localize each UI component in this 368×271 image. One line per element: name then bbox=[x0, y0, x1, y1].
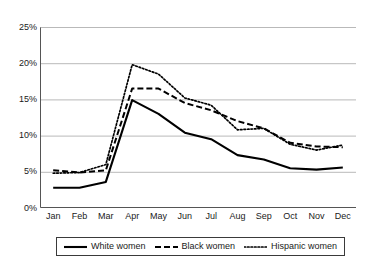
legend-entry-white-women[interactable]: White women bbox=[64, 242, 146, 251]
gridlines bbox=[40, 28, 356, 173]
y-axis: 0%5%10%15%20%25% bbox=[0, 27, 37, 208]
plot-area bbox=[40, 27, 356, 208]
x-tick-label-apr: Apr bbox=[125, 211, 139, 222]
legend-label: Black women bbox=[182, 242, 236, 251]
legend-label: White women bbox=[91, 242, 146, 251]
unemployment-line-chart: 0%5%10%15%20%25% JanFebMarAprMayJunJulAu… bbox=[0, 0, 368, 271]
y-tick-label: 5% bbox=[3, 167, 37, 176]
x-tick-label-may: May bbox=[150, 211, 167, 222]
data-series-group bbox=[53, 65, 343, 188]
axis-lines bbox=[41, 28, 357, 208]
series-line-hispanic-women bbox=[53, 65, 343, 174]
legend-swatch-dashed-icon bbox=[155, 243, 178, 251]
plot-svg bbox=[40, 27, 356, 208]
x-tick-label-jul: Jul bbox=[205, 211, 217, 222]
x-tick-label-aug: Aug bbox=[229, 211, 245, 222]
legend-label: Hispanic women bbox=[271, 242, 337, 251]
x-tick-label-oct: Oct bbox=[283, 211, 297, 222]
x-tick-label-jan: Jan bbox=[46, 211, 61, 222]
x-tick-label-sep: Sep bbox=[256, 211, 272, 222]
y-tick-label: 15% bbox=[3, 95, 37, 104]
x-tick-label-jun: Jun bbox=[178, 211, 193, 222]
x-axis: JanFebMarAprMayJunJulAugSepOctNovDec bbox=[40, 211, 356, 225]
legend-entry-hispanic-women[interactable]: Hispanic women bbox=[244, 242, 337, 251]
x-tick-label-nov: Nov bbox=[308, 211, 324, 222]
y-tick-label: 10% bbox=[3, 131, 37, 140]
x-tick-label-dec: Dec bbox=[335, 211, 351, 222]
legend-swatch-solid-icon bbox=[64, 243, 87, 251]
chart-legend: White womenBlack womenHispanic women bbox=[56, 237, 345, 256]
y-tick-label: 0% bbox=[3, 204, 37, 213]
x-tick-label-mar: Mar bbox=[98, 211, 114, 222]
y-tick-label: 20% bbox=[3, 59, 37, 68]
y-tick-label: 25% bbox=[3, 23, 37, 32]
legend-entry-black-women[interactable]: Black women bbox=[155, 242, 236, 251]
legend-swatch-dotted-icon bbox=[244, 243, 267, 251]
x-tick-label-feb: Feb bbox=[72, 211, 88, 222]
